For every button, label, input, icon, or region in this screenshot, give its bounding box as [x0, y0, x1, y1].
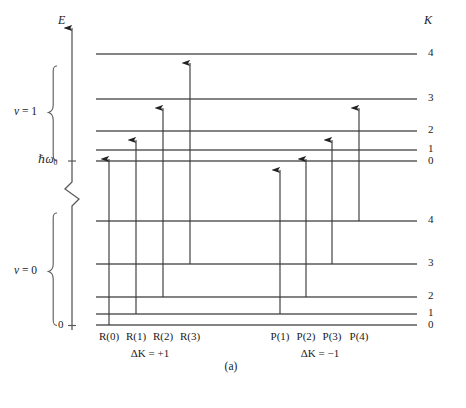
upper-k-label-0: 0 — [428, 155, 434, 166]
lower-k-label-2: 2 — [428, 290, 434, 301]
rotational-quantum-number-axis-label: K — [424, 14, 432, 26]
v0-value: = 0 — [22, 264, 37, 276]
transition-label-R2: R(2) — [148, 331, 178, 342]
selection-rule-p-branch: ΔK = −1 — [280, 348, 360, 359]
upper-k-label-3: 3 — [428, 92, 434, 103]
v1-symbol: v — [14, 105, 19, 117]
diagram-canvas — [0, 0, 466, 408]
upper-level-lines — [96, 54, 417, 161]
upper-k-label-4: 4 — [428, 47, 434, 58]
axis-break-zigzag — [65, 178, 79, 330]
lower-level-lines — [96, 221, 417, 325]
transition-label-R1: R(1) — [121, 331, 151, 342]
energy-axis — [65, 28, 79, 330]
v1-brace — [49, 66, 58, 161]
lower-k-label-1: 1 — [428, 307, 434, 318]
vibrational-state-v1-label: v = 1 — [14, 106, 37, 118]
lower-k-label-0: 0 — [428, 319, 434, 330]
photon-energy-subscript: 0 — [54, 158, 58, 167]
photon-energy-label: ℏω0 — [38, 154, 57, 166]
transition-label-P4: P(4) — [344, 331, 374, 342]
transition-label-P3: P(3) — [317, 331, 347, 342]
axis-origin-label: 0 — [58, 319, 64, 330]
energy-axis-label: E — [58, 14, 65, 26]
vibrational-state-v0-label: v = 0 — [14, 265, 37, 277]
energy-level-diagram: E K 0 ℏω0 v = 1 v = 0 4 3 2 1 0 4 3 2 1 … — [0, 0, 466, 408]
upper-k-label-1: 1 — [428, 143, 434, 154]
p-branch-arrows — [280, 108, 359, 314]
r-branch-arrows — [109, 63, 190, 325]
v0-brace — [49, 213, 58, 326]
v0-symbol: v — [14, 264, 19, 276]
selection-rule-r-branch: ΔK = +1 — [110, 348, 190, 359]
upper-k-label-2: 2 — [428, 124, 434, 135]
transition-label-R3: R(3) — [175, 331, 205, 342]
v1-value: = 1 — [22, 105, 37, 117]
lower-k-label-3: 3 — [428, 257, 434, 268]
figure-caption: (a) — [208, 361, 254, 373]
transition-label-R0: R(0) — [94, 331, 124, 342]
photon-energy-symbol: ℏω — [38, 153, 54, 165]
lower-k-label-4: 4 — [428, 214, 434, 225]
